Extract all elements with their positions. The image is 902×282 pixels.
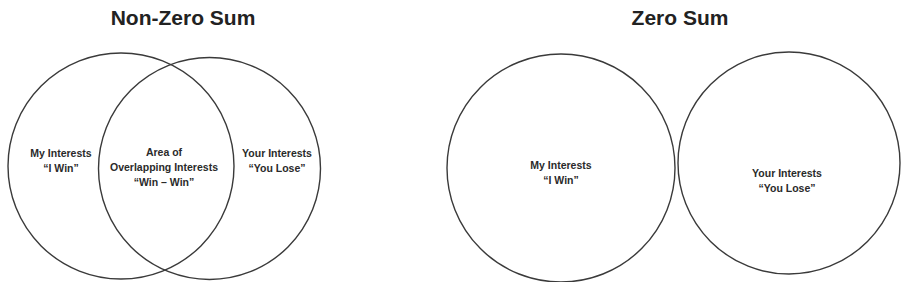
- label-line: “Win – Win”: [110, 175, 218, 190]
- label-line: “I Win”: [30, 161, 91, 176]
- nonzero-sum-title: Non-Zero Sum: [103, 6, 263, 30]
- nonzero-your-interests-label: Your Interests “You Lose”: [242, 146, 312, 176]
- label-line: Your Interests: [752, 166, 822, 181]
- label-line: Your Interests: [242, 146, 312, 161]
- label-line: Overlapping Interests: [110, 160, 218, 175]
- nonzero-overlap-label: Area of Overlapping Interests “Win – Win…: [110, 145, 218, 190]
- nonzero-my-interests-label: My Interests “I Win”: [30, 146, 91, 176]
- label-line: “You Lose”: [242, 161, 312, 176]
- zero-sum-title: Zero Sum: [610, 6, 750, 30]
- zerosum-your-interests-circle: [678, 52, 900, 274]
- label-line: My Interests: [530, 158, 591, 173]
- zerosum-your-interests-label: Your Interests “You Lose”: [752, 166, 822, 196]
- label-line: “I Win”: [530, 173, 591, 188]
- label-line: Area of: [110, 145, 218, 160]
- label-line: My Interests: [30, 146, 91, 161]
- label-line: “You Lose”: [752, 181, 822, 196]
- zerosum-my-interests-label: My Interests “I Win”: [530, 158, 591, 188]
- venn-diagram-canvas: [0, 0, 902, 282]
